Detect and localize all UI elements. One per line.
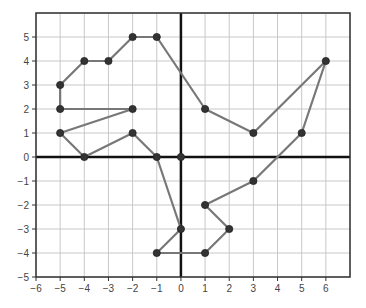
data-series: [57, 33, 330, 256]
x-tick-label: 5: [299, 283, 305, 294]
coordinate-plane-chart: −6−5−4−3−2−10123456−5−4−3−2−1012345: [0, 0, 366, 308]
data-point: [153, 249, 160, 256]
data-point: [153, 153, 160, 160]
data-point: [177, 153, 184, 160]
x-tick-label: 6: [323, 283, 329, 294]
x-tick-label: 4: [275, 283, 281, 294]
y-tick-label: 1: [23, 128, 29, 139]
x-tick-label: 2: [226, 283, 232, 294]
y-tick-label: 3: [23, 80, 29, 91]
x-tick-label: −2: [127, 283, 139, 294]
data-point: [129, 129, 136, 136]
plot-border: [36, 13, 350, 277]
data-point: [153, 33, 160, 40]
y-tick-label: 0: [23, 152, 29, 163]
data-point: [201, 105, 208, 112]
x-tick-label: −6: [30, 283, 42, 294]
y-tick-label: −2: [18, 200, 30, 211]
data-point: [81, 153, 88, 160]
y-tick-label: 2: [23, 104, 29, 115]
data-point: [57, 105, 64, 112]
grid-lines: [36, 13, 350, 277]
data-point: [226, 225, 233, 232]
x-tick-label: 3: [251, 283, 257, 294]
data-point: [129, 33, 136, 40]
data-point: [250, 129, 257, 136]
data-point: [298, 129, 305, 136]
data-point: [129, 105, 136, 112]
data-point: [177, 225, 184, 232]
data-point: [81, 57, 88, 64]
y-tick-label: −4: [18, 248, 30, 259]
data-point: [250, 177, 257, 184]
y-tick-label: −3: [18, 224, 30, 235]
x-tick-label: −1: [151, 283, 163, 294]
data-point: [57, 129, 64, 136]
x-tick-label: −3: [103, 283, 115, 294]
y-tick-label: 4: [23, 56, 29, 67]
plot-frame: [36, 13, 350, 277]
x-tick-label: 1: [202, 283, 208, 294]
x-tick-label: −5: [54, 283, 66, 294]
y-tick-label: 5: [23, 32, 29, 43]
x-tick-label: −4: [79, 283, 91, 294]
data-point: [57, 81, 64, 88]
data-point: [105, 57, 112, 64]
y-tick-label: −1: [18, 176, 30, 187]
data-point: [201, 201, 208, 208]
data-point: [322, 57, 329, 64]
series-line-outline: [60, 37, 326, 253]
tick-labels: −6−5−4−3−2−10123456−5−4−3−2−1012345: [18, 32, 329, 295]
y-tick-label: −5: [18, 272, 30, 283]
axes: [36, 13, 350, 277]
data-point: [201, 249, 208, 256]
x-tick-label: 0: [178, 283, 184, 294]
